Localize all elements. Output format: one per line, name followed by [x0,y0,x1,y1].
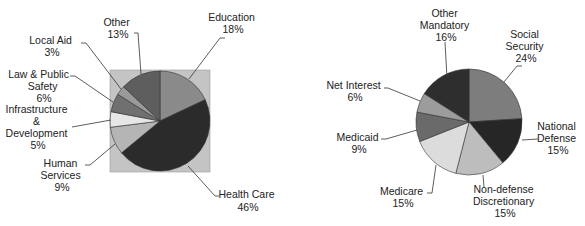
label-other: Other 13% [103,16,132,40]
label-local-aid: Local Aid 3% [29,34,75,58]
leader-infrastructure [72,120,111,127]
left-pie-slices [110,71,210,171]
label-medicaid: Medicaid 9% [337,131,382,155]
label-human-services: Human Services 9% [40,157,83,193]
label-health-care: Health Care 46% [219,188,278,213]
label-education: Education 18% [208,11,258,35]
leader-medicaid [381,130,417,139]
pie-slice-social-security [469,69,522,122]
leader-national-defense [522,139,538,140]
label-national-defense: National Defense 15% [537,120,579,156]
label-other-mandatory: Other Mandatory 16% [420,7,473,43]
leader-other [134,33,141,74]
label-infrastructure: Infrastructure & Development 5% [6,103,71,151]
label-social-security: Social Security 24% [506,28,547,64]
right-pie-slices [416,69,522,175]
label-medicare: Medicare 15% [380,185,426,209]
leader-net-interest [384,88,420,101]
leader-law-public-safety [70,76,113,102]
label-law-public-safety: Law & Public Safety 6% [8,68,72,104]
label-net-interest: Net Interest 6% [326,79,383,103]
label-non-defense-discretionary: Non-defense Discretionary 15% [473,183,537,219]
right-pie-chart: Social Security 24% National Defense 15%… [326,7,579,219]
left-pie-chart: Education 18% Health Care 46% Human Serv… [6,11,278,213]
leader-social-security [504,66,522,82]
chart-canvas: Education 18% Health Care 46% Human Serv… [0,0,585,226]
leader-medicare [427,165,436,193]
leader-other-mandatory [445,42,447,78]
